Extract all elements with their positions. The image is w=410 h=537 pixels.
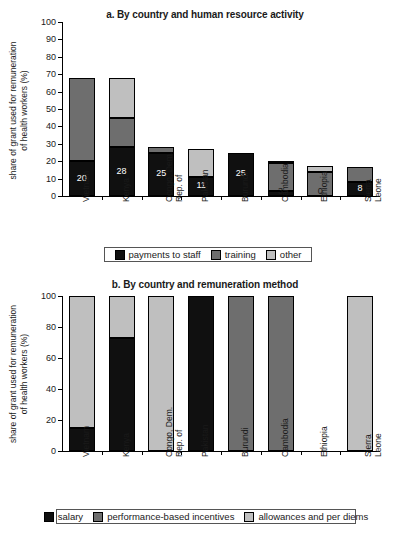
x-axis-label-line1: Ethiopia — [319, 171, 329, 202]
chart-b-title: b. By country and remuneration method — [0, 279, 410, 290]
bar-segment-allowances-and-per-diems — [109, 296, 135, 338]
legend-swatch-icon — [211, 250, 221, 260]
x-axis-label-burundi: Burundi — [240, 428, 250, 457]
chart-a-y-tick-label: 80 — [30, 52, 56, 62]
legend-swatch-icon — [266, 250, 276, 260]
chart-a-y-tick-label: 20 — [30, 156, 56, 166]
bar-sierra-leone — [347, 22, 373, 196]
chart-a-y-tick — [58, 39, 62, 40]
chart-b-y-tick-label: 20 — [30, 415, 56, 425]
legend-item-salary: salary — [44, 511, 83, 522]
chart-b-y-axis-title-line2: of health workers (%) — [19, 294, 30, 454]
bar-kenya — [109, 296, 135, 451]
bar-ethiopia — [307, 22, 333, 196]
chart-b-x-tick — [301, 451, 302, 455]
x-axis-label-line1: Sierra — [363, 178, 373, 202]
x-axis-label-line1: Sierra — [363, 433, 373, 457]
chart-a-y-axis-title-line2: of health workers (%) — [19, 22, 30, 199]
x-axis-label-burundi: Burundi — [240, 173, 250, 202]
legend-item-other: other — [266, 249, 302, 260]
chart-b-y-tick-label: 0 — [30, 446, 56, 456]
chart-b-y-tick — [58, 389, 62, 390]
x-axis-label-sierra: SierraLeone — [363, 178, 383, 202]
legend-label: training — [225, 249, 256, 260]
chart-b-y-axis-line — [62, 296, 63, 451]
legend-swatch-icon — [244, 512, 254, 522]
legend-label: payments to staff — [129, 249, 201, 260]
chart-a-y-tick-label: 100 — [30, 17, 56, 27]
bar-value-label: 28 — [109, 166, 135, 176]
chart-a-y-tick-label: 60 — [30, 87, 56, 97]
x-axis-label-line1: Vietnam — [81, 171, 91, 202]
x-axis-label-line2: Leone — [373, 433, 383, 457]
chart-a-title: a. By country and human resource activit… — [0, 9, 410, 20]
chart-b-y-axis-title: share of grant used for remuneration of … — [8, 294, 30, 454]
chart-b-legend: salaryperformance-based incentivesallowa… — [56, 509, 356, 524]
chart-b-x-tick — [142, 451, 143, 455]
chart-a-y-tick — [58, 92, 62, 93]
chart-a-y-axis-title-line1: share of grant used for remuneration — [8, 22, 19, 199]
legend-item-training: training — [211, 249, 256, 260]
legend-swatch-icon — [115, 250, 125, 260]
legend-label: performance-based incentives — [107, 511, 234, 522]
chart-a-y-tick — [58, 109, 62, 110]
x-axis-label-sierra: SierraLeone — [363, 433, 383, 457]
x-axis-label-cambodia: Cambodia — [280, 418, 290, 457]
legend-label: allowances and per diems — [258, 511, 368, 522]
chart-b-y-tick-label: 80 — [30, 322, 56, 332]
chart-b-x-tick — [261, 451, 262, 455]
chart-a-y-tick — [58, 196, 62, 197]
chart-a-y-tick-label: 70 — [30, 69, 56, 79]
x-axis-label-line1: Cambodia — [280, 163, 290, 202]
legend-label: salary — [58, 511, 83, 522]
chart-a-y-tick — [58, 74, 62, 75]
legend-item-payments-to-staff: payments to staff — [115, 249, 201, 260]
legend-item-allowances-and-per-diems: allowances and per diems — [244, 511, 368, 522]
x-axis-label-line2: Rep. of — [174, 407, 184, 457]
chart-a-x-tick — [102, 196, 103, 200]
chart-b-y-tick-label: 100 — [30, 291, 56, 301]
chart-b-y-tick-label: 40 — [30, 384, 56, 394]
x-axis-label-line1: Burundi — [240, 173, 250, 202]
chart-a-x-tick — [181, 196, 182, 200]
chart-a-x-tick — [340, 196, 341, 200]
chart-b-x-tick — [221, 451, 222, 455]
x-axis-label-congo-dem: Congo, Dem.Rep. of — [164, 152, 184, 202]
chart-b-y-tick-label: 60 — [30, 353, 56, 363]
x-axis-label-pakistan: Pakistan — [200, 169, 210, 202]
x-axis-label-ethiopia: Ethiopia — [319, 426, 329, 457]
chart-a-x-tick — [301, 196, 302, 200]
chart-a-y-tick-label: 90 — [30, 34, 56, 44]
chart-b-y-axis-title-line1: share of grant used for remuneration — [8, 294, 19, 454]
chart-a-y-tick — [58, 22, 62, 23]
bar-segment-training — [69, 78, 95, 162]
chart-b-y-tick — [58, 296, 62, 297]
legend-swatch-icon — [93, 512, 103, 522]
chart-b-y-tick — [58, 420, 62, 421]
x-axis-label-vietnam: Vietnam — [81, 171, 91, 202]
chart-a-y-tick — [58, 57, 62, 58]
bar-segment-allowances-and-per-diems — [69, 296, 95, 428]
chart-a-y-tick-label: 30 — [30, 139, 56, 149]
chart-a-y-axis-title: share of grant used for remuneration of … — [8, 22, 30, 199]
bar-segment-training — [109, 118, 135, 148]
chart-a-y-tick — [58, 126, 62, 127]
chart-b-y-tick — [58, 358, 62, 359]
bar-vietnam — [69, 22, 95, 196]
legend-label: other — [280, 249, 302, 260]
chart-a-plot-area: 010203040506070809010020Vietnam28Kenya25… — [62, 22, 380, 196]
legend-item-performance-based-incentives: performance-based incentives — [93, 511, 234, 522]
x-axis-label-kenya: Kenya — [121, 433, 131, 457]
x-axis-label-pakistan: Pakistan — [200, 424, 210, 457]
x-axis-label-line1: Kenya — [121, 178, 131, 202]
chart-a-y-tick-label: 10 — [30, 174, 56, 184]
x-axis-label-line1: Vietnam — [81, 426, 91, 457]
chart-b-plot-area: 020406080100VietnamKenyaCongo, Dem.Rep. … — [62, 296, 380, 451]
x-axis-label-vietnam: Vietnam — [81, 426, 91, 457]
chart-a-legend: payments to stafftrainingother — [104, 247, 312, 262]
chart-panel-a: a. By country and human resource activit… — [0, 0, 410, 270]
x-axis-label-line1: Cambodia — [280, 418, 290, 457]
x-axis-label-line2: Leone — [373, 178, 383, 202]
chart-a-y-tick-label: 0 — [30, 191, 56, 201]
x-axis-label-cambodia: Cambodia — [280, 163, 290, 202]
